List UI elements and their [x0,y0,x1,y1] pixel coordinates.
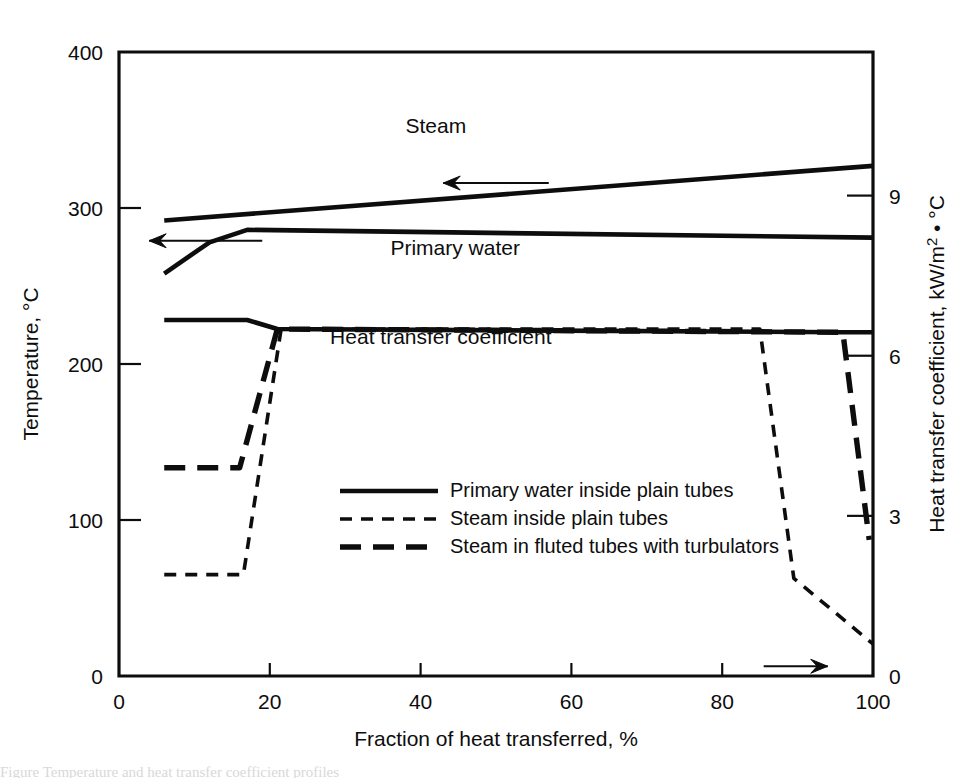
legend-label: Primary water inside plain tubes [450,479,733,501]
y-axis-title: Temperature, °C [19,287,42,440]
legend: Primary water inside plain tubesSteam in… [340,479,779,557]
y-tick-label: 100 [68,509,103,532]
plot-frame [119,52,873,676]
figure-container: 020406080100 0100200300400 0369 SteamPri… [0,0,969,779]
x-tick-label: 0 [113,690,125,713]
y2-tick-label: 3 [889,505,901,528]
annotation-steam-curve-label: Steam [406,114,467,137]
arrow-htc-to-right-axis [764,659,828,673]
series-temperature-steam [164,166,873,221]
y2-axis-title: Heat transfer coefficient, kW/m2 • °C [923,195,948,533]
svg-text:Heat transfer coefficient, kW/: Heat transfer coefficient, kW/m2 • °C [923,195,948,533]
y2-tick-label: 0 [889,665,901,688]
svg-text:Temperature, °C: Temperature, °C [19,287,42,440]
y-tick-label: 0 [91,665,103,688]
y-tick-label: 300 [68,197,103,220]
y-tick-label: 400 [68,41,103,64]
x-tick-label: 40 [409,690,432,713]
x-tick-label: 80 [711,690,734,713]
x-tick-label: 60 [560,690,583,713]
legend-label: Steam inside plain tubes [450,507,668,529]
chart-canvas: 020406080100 0100200300400 0369 SteamPri… [0,0,969,779]
annotation-primary-water-curve-label: Primary water [390,236,520,259]
figure-caption-partial: Figure Temperature and heat transfer coe… [0,764,969,778]
y-axis-ticks: 0100200300400 [68,41,141,688]
x-tick-label: 20 [258,690,281,713]
y-tick-label: 200 [68,353,103,376]
plot-border [119,52,873,676]
arrow-steam-to-left-axis [443,176,549,190]
x-tick-label: 100 [855,690,890,713]
x-axis-title: Fraction of heat transferred, % [354,727,638,750]
x-axis-ticks: 020406080100 [113,663,890,713]
legend-label: Steam in fluted tubes with turbulators [450,535,779,557]
annotation-htc-curve-label: Heat transfer coefficient [330,325,552,348]
y2-tick-label: 6 [889,345,901,368]
y2-tick-label: 9 [889,185,901,208]
